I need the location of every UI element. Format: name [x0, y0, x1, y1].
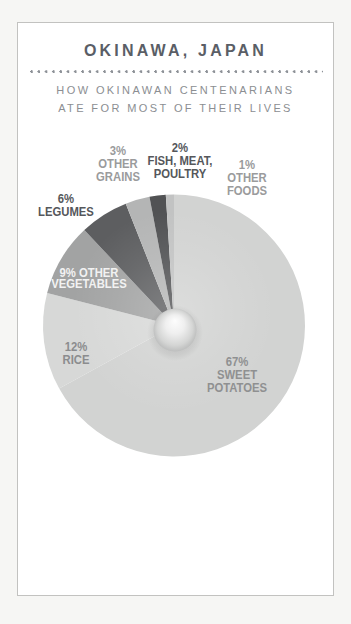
page-background: OKINAWA, JAPAN HOW OKINAWAN CENTENARIANS… [0, 0, 351, 624]
label-sweet-potatoes-line3: POTATOES [207, 382, 267, 395]
label-sweet-potatoes: 67% SWEET POTATOES [207, 356, 267, 395]
label-fish-meat-poultry: 2% FISH, MEAT, POULTRY [148, 142, 213, 181]
label-legumes: 6% LEGUMES [38, 193, 94, 219]
label-rice: 12% RICE [63, 341, 90, 367]
pie-chart [0, 0, 351, 624]
label-other-vegetables-line2: VEGETABLES [51, 279, 127, 290]
label-other-grains: 3% OTHER GRAINS [96, 145, 140, 184]
label-other-foods: 1% OTHER FOODS [227, 159, 267, 198]
label-other-vegetables: 9% OTHER VEGETABLES [51, 268, 127, 290]
label-rice-line2: RICE [63, 354, 90, 367]
label-fish-meat-poultry-line3: POULTRY [148, 168, 213, 181]
center-sphere [154, 309, 197, 352]
label-legumes-line2: LEGUMES [38, 206, 94, 219]
label-other-foods-line3: FOODS [227, 185, 267, 198]
label-other-grains-line3: GRAINS [96, 171, 140, 184]
